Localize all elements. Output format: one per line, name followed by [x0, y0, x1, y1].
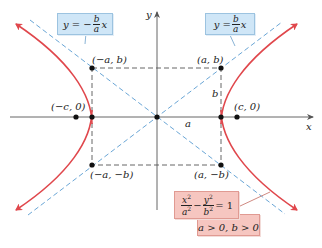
label-semi-axis-a: a — [185, 118, 191, 129]
asymptote-pos-lhs: y = — [214, 19, 231, 30]
label-corner-top-right: (a, b) — [197, 54, 224, 65]
equation-term1-den: a2 — [181, 206, 192, 217]
asymptote-pos-num: b — [232, 15, 240, 25]
callout-equation: x2 a2 − y2 b2 = 1 — [174, 191, 239, 219]
point-corner-bottom-left — [89, 162, 94, 167]
asymptote-neg-den: a — [93, 25, 100, 34]
point-origin — [154, 114, 159, 119]
label-focus-left: (−c, 0) — [51, 101, 86, 112]
label-focus-right: (c, 0) — [234, 101, 260, 112]
asymptote-pos-den: a — [232, 25, 239, 34]
asymptote-pos-rhs: x — [241, 19, 247, 30]
asymptote-neg-num: b — [93, 15, 101, 25]
equation-term2: y2 b2 — [203, 194, 215, 217]
label-corner-bottom-right: (a, −b) — [194, 169, 229, 180]
callout-asymptote-positive: y = b a x — [205, 13, 255, 35]
equation-term2-den: b2 — [203, 206, 215, 217]
point-vertex-left — [89, 114, 94, 119]
condition-text: a > 0, b > 0 — [198, 222, 259, 233]
point-focus-left — [73, 114, 78, 119]
callout-pointer-equation — [238, 192, 270, 207]
point-corner-top-right — [218, 65, 223, 70]
y-axis-label: y — [145, 9, 152, 20]
asymptote-neg-fraction: b a — [93, 15, 101, 34]
equation-rhs: = 1 — [215, 200, 233, 211]
asymptote-pos-fraction: b a — [232, 15, 240, 34]
equation-term1: x2 a2 — [181, 194, 192, 217]
callout-asymptote-negative: y = − b a x — [57, 13, 113, 35]
label-corner-top-left: (−a, b) — [92, 54, 127, 65]
x-axis-label: x — [306, 121, 312, 132]
equation-minus: − — [193, 200, 201, 211]
asymptote-neg-lhs: y = − — [63, 19, 92, 30]
point-focus-right — [234, 114, 239, 119]
point-corner-bottom-right — [218, 162, 223, 167]
point-corner-top-left — [89, 65, 94, 70]
hyperbola-diagram: x y (−a, b) (a, b) (−a, −b) (a, −b) (−c,… — [0, 0, 322, 248]
label-semi-axis-b: b — [212, 88, 218, 99]
point-vertex-right — [218, 114, 223, 119]
label-corner-bottom-left: (−a, −b) — [90, 169, 133, 180]
asymptote-neg-rhs: x — [101, 19, 107, 30]
